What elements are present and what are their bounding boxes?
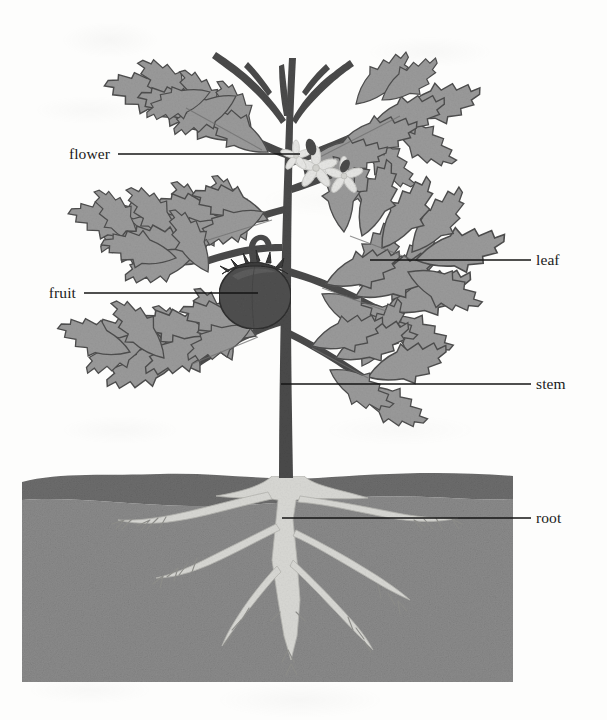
label-fruit-text: fruit [49, 284, 76, 301]
label-root: root [536, 509, 561, 527]
leaf-cluster-upper-left [100, 46, 279, 167]
label-flower: flower [0, 145, 110, 163]
label-stem-text: stem [536, 375, 566, 392]
label-flower-text: flower [69, 145, 110, 162]
label-stem: stem [536, 375, 566, 393]
label-fruit: fruit [0, 284, 76, 302]
label-leaf-text: leaf [536, 251, 560, 268]
label-leaf: leaf [536, 251, 560, 269]
label-root-text: root [536, 509, 561, 526]
diagram-stage: flower fruit leaf stem root [0, 0, 607, 720]
tomato-plant-figure [0, 0, 607, 720]
